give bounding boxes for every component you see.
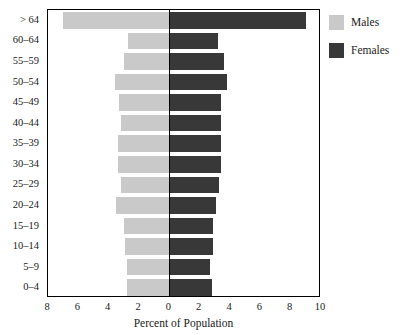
bar-male-6 (118, 135, 170, 151)
x-axis-tick-6: 4 (226, 300, 231, 314)
bar-row (48, 94, 319, 110)
bar-row (48, 12, 319, 28)
bar-female-12 (169, 259, 210, 275)
chart-legend: MalesFemales (329, 11, 403, 67)
bar-male-11 (125, 238, 169, 254)
bar-row (48, 259, 319, 275)
y-axis-label-12: 5–9 (23, 261, 39, 272)
bar-female-0 (169, 12, 306, 28)
x-axis-tick-9: 10 (315, 300, 326, 314)
legend-label-0: Males (351, 16, 379, 29)
chart-title (47, 0, 320, 3)
bars-container (48, 10, 319, 296)
y-axis-label-9: 20–24 (13, 199, 39, 210)
x-axis-tick-2: 4 (105, 300, 110, 314)
y-axis-label-8: 25–29 (13, 178, 39, 189)
bar-female-1 (169, 33, 218, 49)
bar-male-8 (121, 177, 170, 193)
x-axis-tick-3: 2 (135, 300, 140, 314)
bar-row (48, 197, 319, 213)
bar-row (48, 177, 319, 193)
x-axis-tick-8: 8 (287, 300, 292, 314)
bar-row (48, 53, 319, 69)
bar-male-2 (124, 53, 170, 69)
y-axis-labels: > 6460–6455–5950–5445–4940–4435–3930–342… (0, 9, 43, 297)
bar-row (48, 238, 319, 254)
x-axis-title: Percent of Population (47, 316, 320, 330)
bar-male-4 (119, 94, 169, 110)
x-axis-tick-0: 8 (44, 300, 49, 314)
bar-male-12 (127, 259, 169, 275)
bar-male-5 (121, 115, 170, 131)
x-axis-tick-labels: 86420246810 (0, 300, 403, 316)
y-axis-label-2: 55–59 (13, 55, 39, 66)
x-axis-tick-4: 0 (166, 300, 171, 314)
bar-female-7 (169, 156, 221, 172)
bar-female-11 (169, 238, 213, 254)
legend-label-1: Females (351, 44, 389, 57)
x-axis-tick-1: 6 (75, 300, 80, 314)
bar-row (48, 115, 319, 131)
bar-male-7 (118, 156, 170, 172)
zero-axis-line (169, 10, 171, 296)
population-pyramid-chart: > 6460–6455–5950–5445–4940–4435–3930–342… (0, 0, 403, 335)
bar-female-10 (169, 218, 213, 234)
y-axis-label-6: 35–39 (13, 137, 39, 148)
legend-item-males[interactable]: Males (329, 11, 403, 33)
bar-row (48, 74, 319, 90)
bar-female-8 (169, 177, 219, 193)
bar-row (48, 156, 319, 172)
y-axis-label-3: 50–54 (13, 76, 39, 87)
bar-female-9 (169, 197, 216, 213)
bar-female-3 (169, 74, 227, 90)
y-axis-label-4: 45–49 (13, 96, 39, 107)
y-axis-label-13: 0–4 (23, 281, 39, 292)
y-axis-label-1: 60–64 (13, 34, 39, 45)
y-axis-label-0: > 64 (20, 14, 39, 25)
legend-swatch-females (329, 43, 344, 58)
legend-item-females[interactable]: Females (329, 39, 403, 61)
bar-male-9 (116, 197, 169, 213)
y-axis-label-11: 10–14 (13, 240, 39, 251)
plot-area (47, 9, 320, 297)
legend-swatch-males (329, 15, 344, 30)
bar-female-6 (169, 135, 221, 151)
bar-female-4 (169, 94, 221, 110)
bar-row (48, 33, 319, 49)
bar-female-5 (169, 115, 221, 131)
x-axis-tick-5: 2 (196, 300, 201, 314)
bar-male-1 (128, 33, 169, 49)
y-axis-label-10: 15–19 (13, 220, 39, 231)
y-axis-label-5: 40–44 (13, 117, 39, 128)
bar-male-13 (127, 279, 169, 295)
bar-male-0 (63, 12, 169, 28)
y-axis-label-7: 30–34 (13, 158, 39, 169)
bar-female-13 (169, 279, 211, 295)
bar-male-10 (124, 218, 170, 234)
bar-female-2 (169, 53, 224, 69)
bar-row (48, 279, 319, 295)
x-axis-tick-7: 6 (257, 300, 262, 314)
bar-row (48, 218, 319, 234)
bar-male-3 (115, 74, 170, 90)
bar-row (48, 135, 319, 151)
